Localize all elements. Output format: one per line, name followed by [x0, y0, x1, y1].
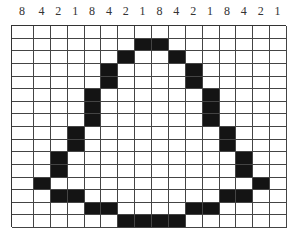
empty-cell: [12, 215, 34, 228]
empty-cell: [220, 178, 237, 191]
empty-cell: [34, 215, 51, 228]
empty-cell: [85, 64, 102, 77]
empty-cell: [12, 178, 34, 191]
column-weight-label: 8: [84, 4, 101, 19]
empty-cell: [12, 102, 34, 115]
empty-cell: [186, 140, 203, 153]
filled-cell: [85, 114, 102, 127]
empty-cell: [203, 39, 220, 52]
empty-cell: [169, 26, 186, 39]
empty-cell: [236, 114, 253, 127]
empty-cell: [236, 102, 253, 115]
empty-cell: [220, 77, 237, 90]
filled-cell: [135, 39, 152, 52]
empty-cell: [220, 39, 237, 52]
empty-cell: [270, 39, 287, 52]
filled-cell: [203, 203, 220, 216]
empty-cell: [253, 64, 270, 77]
column-weight-label: 8: [219, 4, 236, 19]
column-weight-label: 8: [151, 4, 168, 19]
column-weight-label: 2: [185, 4, 202, 19]
empty-cell: [169, 127, 186, 140]
filled-cell: [203, 102, 220, 115]
empty-cell: [270, 89, 287, 102]
empty-cell: [101, 140, 118, 153]
empty-cell: [101, 165, 118, 178]
empty-cell: [270, 152, 287, 165]
empty-cell: [203, 190, 220, 203]
empty-cell: [51, 114, 68, 127]
empty-cell: [270, 64, 287, 77]
empty-cell: [186, 165, 203, 178]
empty-cell: [203, 140, 220, 153]
empty-cell: [152, 165, 169, 178]
empty-cell: [34, 89, 51, 102]
empty-cell: [169, 39, 186, 52]
empty-cell: [203, 64, 220, 77]
empty-cell: [34, 127, 51, 140]
empty-cell: [68, 203, 85, 216]
empty-cell: [34, 77, 51, 90]
column-weight-label: 4: [33, 4, 50, 19]
empty-cell: [152, 51, 169, 64]
empty-cell: [135, 102, 152, 115]
empty-cell: [236, 89, 253, 102]
empty-cell: [101, 114, 118, 127]
empty-cell: [135, 26, 152, 39]
empty-cell: [135, 64, 152, 77]
column-weight-label: 1: [67, 4, 84, 19]
empty-cell: [12, 165, 34, 178]
empty-cell: [236, 140, 253, 153]
column-weight-label: 2: [117, 4, 134, 19]
filled-cell: [34, 178, 51, 191]
filled-cell: [101, 64, 118, 77]
empty-cell: [270, 114, 287, 127]
empty-cell: [85, 152, 102, 165]
empty-cell: [220, 102, 237, 115]
empty-cell: [253, 102, 270, 115]
filled-cell: [169, 215, 186, 228]
empty-cell: [101, 190, 118, 203]
empty-cell: [203, 51, 220, 64]
empty-cell: [220, 215, 237, 228]
empty-cell: [220, 64, 237, 77]
empty-cell: [152, 127, 169, 140]
filled-cell: [186, 64, 203, 77]
empty-cell: [253, 114, 270, 127]
column-weight-label: 4: [100, 4, 117, 19]
empty-cell: [186, 127, 203, 140]
filled-cell: [203, 114, 220, 127]
empty-cell: [68, 77, 85, 90]
empty-cell: [51, 215, 68, 228]
empty-cell: [236, 39, 253, 52]
empty-cell: [85, 51, 102, 64]
empty-cell: [220, 152, 237, 165]
empty-cell: [85, 26, 102, 39]
empty-cell: [152, 114, 169, 127]
empty-cell: [68, 152, 85, 165]
filled-cell: [186, 77, 203, 90]
filled-cell: [152, 215, 169, 228]
empty-cell: [118, 77, 135, 90]
empty-cell: [152, 203, 169, 216]
empty-cell: [169, 64, 186, 77]
empty-cell: [186, 51, 203, 64]
empty-cell: [68, 26, 85, 39]
filled-cell: [85, 102, 102, 115]
empty-cell: [34, 152, 51, 165]
empty-cell: [270, 203, 287, 216]
empty-cell: [152, 77, 169, 90]
empty-cell: [118, 64, 135, 77]
column-weight-label: 2: [50, 4, 67, 19]
empty-cell: [270, 26, 287, 39]
empty-cell: [270, 190, 287, 203]
empty-cell: [169, 89, 186, 102]
empty-cell: [135, 89, 152, 102]
empty-cell: [169, 203, 186, 216]
empty-cell: [135, 190, 152, 203]
filled-cell: [203, 89, 220, 102]
empty-cell: [12, 77, 34, 90]
empty-cell: [186, 190, 203, 203]
empty-cell: [186, 114, 203, 127]
filled-cell: [152, 39, 169, 52]
